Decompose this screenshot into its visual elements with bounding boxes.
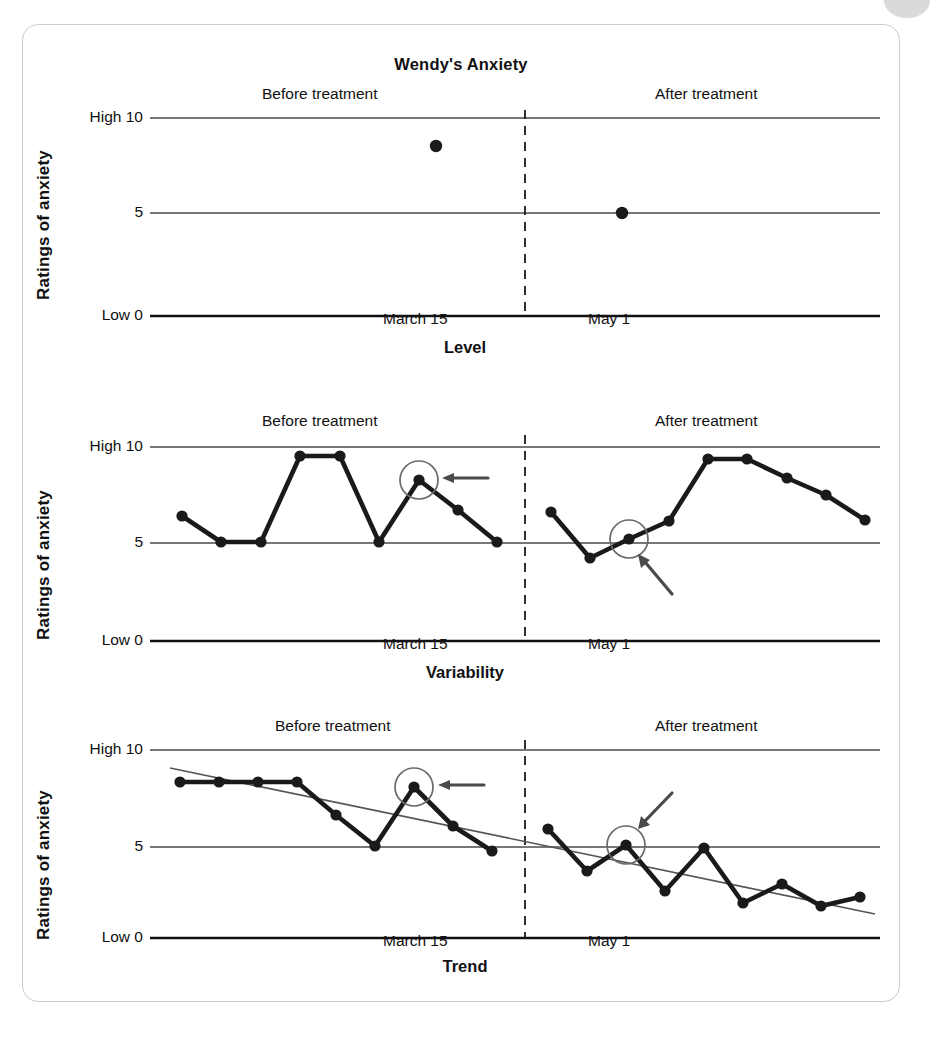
segment-label-after-level: After treatment — [655, 85, 758, 103]
highlight-arrow-before-variability — [442, 473, 488, 483]
y-tick-low-level: Low 0 — [58, 306, 143, 324]
segment-label-before-variability: Before treatment — [262, 412, 377, 430]
x-label-before-level: March 15 — [383, 310, 448, 328]
y-tick-mid-variability: 5 — [58, 533, 143, 551]
series-points-before-variability — [176, 450, 502, 547]
segment-label-after-trend: After treatment — [655, 717, 758, 735]
series-points-after-trend — [542, 823, 865, 911]
series-line-after-trend — [548, 829, 860, 906]
y-tick-mid-trend: 5 — [58, 837, 143, 855]
y-tick-high-variability: High 10 — [58, 437, 143, 455]
gridlines-level — [150, 118, 880, 316]
segment-label-before-level: Before treatment — [262, 85, 377, 103]
series-points-after-variability — [545, 453, 870, 563]
x-label-after-trend: May 1 — [588, 932, 630, 950]
y-tick-high-trend: High 10 — [58, 740, 143, 758]
highlight-arrow-before-trend — [438, 780, 484, 790]
y-axis-label-level: Ratings of anxiety — [34, 150, 54, 300]
x-label-after-level: May 1 — [588, 310, 630, 328]
data-points-level — [430, 140, 628, 219]
series-line-before-variability — [182, 456, 497, 542]
highlight-arrow-after-variability — [638, 554, 672, 594]
y-tick-mid-level: 5 — [58, 203, 143, 221]
x-label-before-trend: March 15 — [383, 932, 448, 950]
segment-label-before-trend: Before treatment — [275, 717, 390, 735]
panel-title-trend: Trend — [0, 957, 930, 976]
y-tick-low-trend: Low 0 — [58, 928, 143, 946]
y-axis-label-trend: Ratings of anxiety — [34, 790, 54, 940]
y-axis-label-variability: Ratings of anxiety — [34, 490, 54, 640]
segment-label-after-variability: After treatment — [655, 412, 758, 430]
panel-trend: Ratings of anxiety High 10 5 Low 0 Befor… — [0, 635, 930, 1035]
y-tick-high-level: High 10 — [58, 108, 143, 126]
highlight-arrow-after-trend — [638, 793, 672, 829]
